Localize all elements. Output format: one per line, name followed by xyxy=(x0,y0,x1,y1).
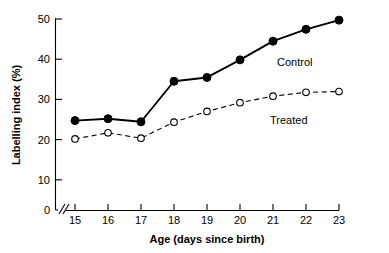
line-chart: 50 40 30 20 10 0 15 16 17 18 19 20 xyxy=(0,0,389,253)
x-axis-tick-labels: 15 16 17 18 19 20 21 22 23 xyxy=(69,214,345,226)
x-tick-label-20: 20 xyxy=(234,214,246,226)
data-point xyxy=(72,136,79,143)
chart-container: 50 40 30 20 10 0 15 16 17 18 19 20 xyxy=(0,0,389,253)
y-tick-label-10: 10 xyxy=(38,174,50,186)
x-axis-ticks xyxy=(75,204,339,211)
data-point xyxy=(236,56,244,64)
series-label-control: Control xyxy=(277,56,312,68)
x-tick-label-22: 22 xyxy=(300,214,312,226)
x-tick-label-18: 18 xyxy=(168,214,180,226)
data-point xyxy=(335,16,343,24)
x-tick-label-16: 16 xyxy=(102,214,114,226)
y-axis-title: Labelling index (%) xyxy=(10,65,22,166)
y-tick-label-50: 50 xyxy=(38,13,50,25)
y-tick-label-40: 40 xyxy=(38,53,50,65)
data-point xyxy=(336,88,343,95)
x-tick-label-17: 17 xyxy=(135,214,147,226)
data-point xyxy=(137,118,145,126)
series-label-treated: Treated xyxy=(270,114,308,126)
y-tick-label-20: 20 xyxy=(38,134,50,146)
x-axis-title: Age (days since birth) xyxy=(150,233,265,245)
data-point xyxy=(237,99,244,106)
data-point xyxy=(138,135,145,142)
y-tick-label-30: 30 xyxy=(38,93,50,105)
data-point xyxy=(203,73,211,81)
data-point xyxy=(71,117,79,125)
y-tick-label-0: 0 xyxy=(44,204,50,216)
y-axis-tick-labels: 50 40 30 20 10 0 xyxy=(38,13,50,216)
axis-break-icon xyxy=(59,204,69,214)
y-axis-ticks xyxy=(56,19,63,210)
x-tick-label-19: 19 xyxy=(201,214,213,226)
data-point xyxy=(269,37,277,45)
data-point xyxy=(270,93,277,100)
data-point xyxy=(171,119,178,126)
control-line xyxy=(75,20,339,122)
data-point xyxy=(303,89,310,96)
x-tick-label-15: 15 xyxy=(69,214,81,226)
data-point xyxy=(302,25,310,33)
data-point xyxy=(204,108,211,115)
data-point xyxy=(170,77,178,85)
data-point xyxy=(104,115,112,123)
x-tick-label-21: 21 xyxy=(267,214,279,226)
data-point xyxy=(105,130,112,137)
x-tick-label-23: 23 xyxy=(333,214,345,226)
